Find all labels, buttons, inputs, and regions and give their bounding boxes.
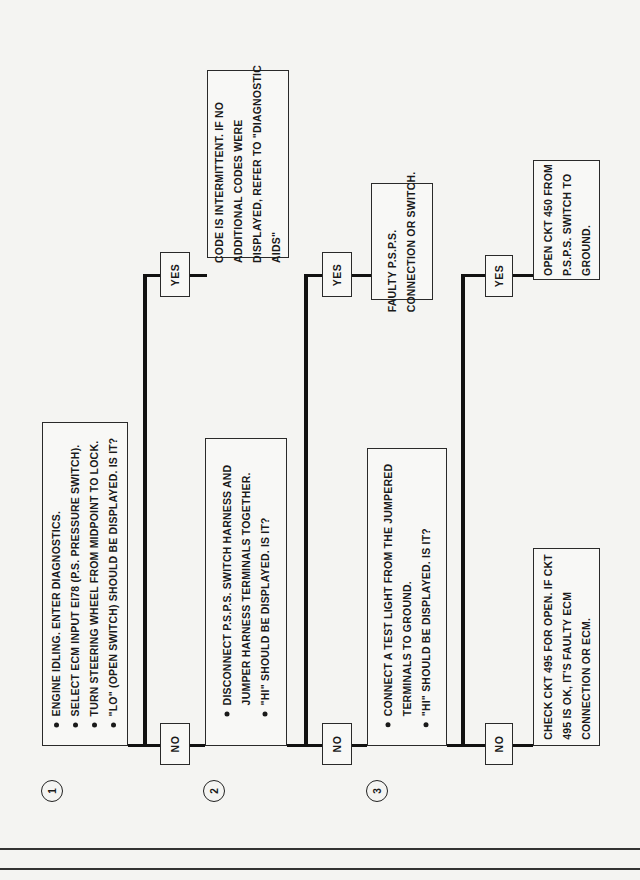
- step-1-bullet: TURN STEERING WHEEL FROM MIDPOINT TO LOC…: [85, 438, 104, 717]
- step-1-yes-label: YES: [160, 252, 190, 297]
- connector-line: [143, 274, 147, 746]
- page-rule-top: [0, 848, 640, 850]
- step-3-number: 3: [372, 788, 383, 794]
- step-2-bullet: DISCONNECT P.S.P.S. SWITCH HARNESS AND J…: [218, 465, 256, 706]
- step-2-bullet: "HI" SHOULD BE DISPLAYED. IS IT?: [256, 465, 275, 706]
- step-1-box: ENGINE IDLING. ENTER DIAGNOSTICS. SELECT…: [42, 422, 128, 746]
- connector-line: [513, 274, 533, 277]
- step-3-number-circle: 3: [366, 780, 388, 802]
- connector-line: [513, 744, 533, 747]
- connector-line: [143, 274, 160, 277]
- step-1-no-label: NO: [160, 723, 190, 765]
- step-3-yes-result-text: OPEN CKT 450 FROM P.S.P.S. SWITCH TO GRO…: [538, 164, 595, 276]
- connector-line: [190, 274, 207, 277]
- step-1-yes-result-text: CODE IS INTERMITTENT. IF NO ADDITIONAL C…: [210, 65, 286, 263]
- step-1-bullet: "LO" (OPEN SWITCH) SHOULD BE DISPLAYED. …: [104, 438, 123, 717]
- step-1-bullet: ENGINE IDLING. ENTER DIAGNOSTICS.: [47, 438, 66, 717]
- connector-line: [352, 744, 367, 747]
- step-1-text: ENGINE IDLING. ENTER DIAGNOSTICS. SELECT…: [47, 438, 123, 731]
- connector-line: [461, 274, 465, 746]
- step-1-yes-result-box: CODE IS INTERMITTENT. IF NO ADDITIONAL C…: [207, 70, 289, 258]
- step-1-number: 1: [47, 788, 58, 794]
- step-3-yes-result-box: OPEN CKT 450 FROM P.S.P.S. SWITCH TO GRO…: [533, 160, 600, 280]
- connector-line: [304, 274, 308, 746]
- step-3-text: CONNECT A TEST LIGHT FROM THE JUMPERED T…: [379, 464, 436, 730]
- step-2-yes-label: YES: [322, 252, 352, 297]
- connector-line: [304, 274, 322, 277]
- step-3-bullet: "HI" SHOULD BE DISPLAYED. IS IT?: [417, 464, 436, 716]
- step-2-no-label: NO: [322, 723, 352, 765]
- connector-line: [461, 274, 485, 277]
- step-2-number: 2: [209, 788, 220, 794]
- step-3-no-result-box: CHECK CKT 495 FOR OPEN. IF CKT 495 IS OK…: [533, 548, 600, 746]
- step-3-bullet: CONNECT A TEST LIGHT FROM THE JUMPERED T…: [379, 464, 417, 716]
- step-3-yes-label: YES: [485, 255, 513, 297]
- step-2-yes-result-text: FAULTY P.S.P.S. CONNECTION OR SWITCH.: [383, 171, 421, 312]
- step-2-number-circle: 2: [203, 780, 225, 802]
- step-2-yes-result-box: FAULTY P.S.P.S. CONNECTION OR SWITCH.: [371, 183, 433, 300]
- step-3-box: CONNECT A TEST LIGHT FROM THE JUMPERED T…: [367, 448, 447, 746]
- step-1-number-circle: 1: [41, 780, 63, 802]
- connector-line: [190, 744, 205, 747]
- step-3-no-label: NO: [485, 723, 513, 765]
- step-1-bullet: SELECT ECM INPUT EI78 (P.S. PRESSURE SWI…: [66, 438, 85, 717]
- step-2-text: DISCONNECT P.S.P.S. SWITCH HARNESS AND J…: [218, 465, 275, 720]
- connector-line: [352, 274, 371, 277]
- page-rule-bottom: [0, 868, 640, 870]
- connector-line: [447, 744, 485, 747]
- step-3-no-result-text: CHECK CKT 495 FOR OPEN. IF CKT 495 IS OK…: [538, 554, 595, 740]
- step-2-box: DISCONNECT P.S.P.S. SWITCH HARNESS AND J…: [205, 438, 287, 746]
